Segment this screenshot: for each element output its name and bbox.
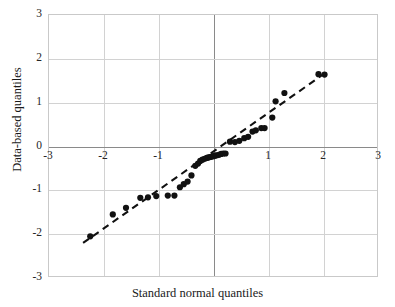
data-layer bbox=[49, 15, 379, 278]
data-point bbox=[87, 233, 93, 239]
plot-area bbox=[48, 14, 378, 277]
data-point bbox=[145, 194, 151, 200]
data-point bbox=[153, 193, 159, 199]
y-tick-0: 0 bbox=[28, 140, 42, 152]
y-tick-2: 2 bbox=[28, 52, 42, 64]
data-point bbox=[273, 98, 279, 104]
y-tick-3: 3 bbox=[28, 8, 42, 20]
x-tick--1: -1 bbox=[153, 150, 163, 162]
x-tick-2: 2 bbox=[320, 150, 326, 162]
y-tick--3: -3 bbox=[24, 271, 42, 283]
data-point bbox=[123, 205, 129, 211]
data-point bbox=[188, 172, 194, 178]
y-axis-title: Data-based quantiles bbox=[10, 35, 25, 205]
y-tick-1: 1 bbox=[28, 96, 42, 108]
qq-plot-figure: -3 -2 -1 1 2 3 3 2 1 0 -1 -2 -3 Standard… bbox=[0, 0, 395, 307]
x-tick--2: -2 bbox=[98, 150, 108, 162]
data-point bbox=[281, 90, 287, 96]
data-point bbox=[165, 192, 171, 198]
y-tick--1: -1 bbox=[24, 184, 42, 196]
data-point bbox=[171, 192, 177, 198]
data-point bbox=[321, 72, 327, 78]
x-tick-1: 1 bbox=[265, 150, 271, 162]
data-point bbox=[269, 114, 275, 120]
data-point bbox=[315, 71, 321, 77]
data-point bbox=[253, 127, 259, 133]
data-point bbox=[110, 211, 116, 217]
x-tick-3: 3 bbox=[375, 150, 381, 162]
y-tick--2: -2 bbox=[24, 227, 42, 239]
data-point bbox=[262, 125, 268, 131]
x-tick--3: -3 bbox=[43, 150, 53, 162]
data-point bbox=[222, 150, 228, 156]
data-point bbox=[185, 178, 191, 184]
data-point bbox=[137, 195, 143, 201]
data-point bbox=[245, 134, 251, 140]
x-axis-title: Standard normal quantiles bbox=[0, 286, 395, 301]
